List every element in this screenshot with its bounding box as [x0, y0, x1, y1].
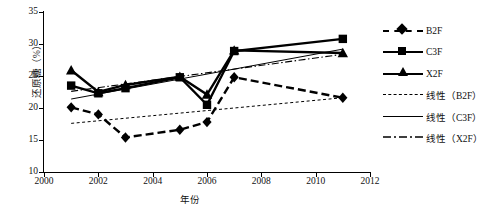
legend-sample-icon — [383, 45, 423, 59]
legend-sample-icon — [383, 88, 423, 102]
legend-marker-icon — [398, 47, 406, 55]
legend-label: 线性（C3F） — [423, 110, 482, 124]
x-tick-label: 2008 — [241, 176, 281, 186]
legend-label: X2F — [423, 69, 443, 79]
legend-item-C3F[interactable]: C3F — [383, 42, 483, 64]
figure-reducing-sugar-by-year: 353025201510 200020022004200620082010201… — [0, 0, 483, 223]
data-point-X2F — [66, 65, 76, 74]
legend-sample-icon — [383, 110, 423, 124]
legend-item-X2F[interactable]: X2F — [383, 63, 483, 85]
data-point-C3F — [203, 101, 211, 109]
y-axis-title: 还原糖（%） — [29, 29, 43, 109]
legend-marker-icon — [396, 24, 407, 35]
x-axis-title: 年份 — [150, 192, 230, 206]
chart-legend: B2FC3FX2F线性（B2F）线性（C3F）线性（X2F） — [383, 20, 483, 149]
y-tick-label: 35 — [16, 7, 38, 17]
data-point-B2F — [175, 125, 184, 135]
data-point-B2F — [338, 93, 347, 103]
legend-marker-icon — [398, 67, 408, 76]
legend-line — [383, 116, 423, 117]
legend-line — [383, 94, 423, 95]
legend-item-B2F[interactable]: B2F — [383, 20, 483, 42]
legend-sample-icon — [383, 67, 423, 81]
legend-label: 线性（X2F） — [423, 131, 483, 145]
data-point-C3F — [339, 35, 347, 43]
trendline-线性（X2F） — [71, 54, 343, 91]
x-tick-label: 2004 — [133, 176, 173, 186]
legend-item-线性（B2F）[interactable]: 线性（B2F） — [383, 85, 483, 107]
x-tick-label: 2002 — [78, 176, 118, 186]
caption-sliver — [128, 215, 348, 221]
legend-label: 线性（B2F） — [423, 88, 482, 102]
legend-sample-icon — [383, 24, 423, 38]
x-tick-label: 2000 — [24, 176, 64, 186]
x-tick-label: 2006 — [187, 176, 227, 186]
legend-label: C3F — [423, 47, 442, 57]
legend-sample-icon — [383, 131, 423, 145]
data-point-C3F — [67, 81, 75, 89]
legend-item-线性（X2F）[interactable]: 线性（X2F） — [383, 128, 483, 150]
legend-label: B2F — [423, 26, 442, 36]
plot-area — [44, 12, 370, 172]
x-tick-label: 2010 — [296, 176, 336, 186]
series-canvas — [44, 12, 370, 172]
data-point-B2F — [67, 102, 76, 112]
data-point-B2F — [121, 132, 130, 142]
y-tick-label: 15 — [16, 135, 38, 145]
legend-item-线性（C3F）[interactable]: 线性（C3F） — [383, 106, 483, 128]
data-point-B2F — [94, 109, 103, 119]
x-tick-label: 2012 — [350, 176, 390, 186]
